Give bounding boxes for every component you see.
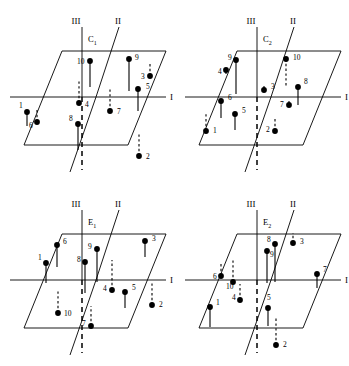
site-number-label: 10 bbox=[77, 57, 85, 66]
site-marker: 7 bbox=[280, 100, 292, 109]
site-dot bbox=[88, 323, 94, 329]
site-dot bbox=[87, 58, 93, 64]
site-number-label: 5 bbox=[242, 106, 246, 115]
site-dot bbox=[286, 102, 292, 108]
site-dot bbox=[109, 287, 115, 293]
site-number-label: 9 bbox=[88, 242, 92, 251]
panel-e1: IIIIIIE112345678910 bbox=[0, 183, 174, 366]
axis-ii-label: II bbox=[115, 16, 121, 26]
axis-ii-line-upper bbox=[96, 27, 119, 97]
crystal-plane-parallelogram bbox=[199, 51, 341, 145]
panel-label: C1 bbox=[88, 34, 97, 46]
panel-label-subscript: 2 bbox=[268, 223, 271, 229]
site-marker: 5 bbox=[122, 283, 136, 308]
site-number-label: 10 bbox=[226, 282, 234, 291]
site-number-label: 1 bbox=[216, 298, 220, 307]
site-number-label: 10 bbox=[64, 309, 72, 318]
site-dot bbox=[24, 109, 30, 115]
site-dot bbox=[147, 73, 153, 79]
axis-ii-line-lower bbox=[245, 280, 271, 355]
site-number-label: 9 bbox=[135, 53, 139, 62]
site-dot bbox=[273, 342, 279, 348]
site-dot bbox=[290, 240, 296, 246]
site-marker: 8 bbox=[295, 77, 308, 105]
site-marker: 9 bbox=[264, 248, 274, 283]
molecular-site-diagram-figure: IIIIIIC112345678910IIIIIIC212345678910II… bbox=[0, 0, 349, 366]
site-dot bbox=[272, 241, 278, 247]
site-number-label: 5 bbox=[267, 293, 271, 302]
site-marker: 10 bbox=[226, 260, 236, 291]
site-number-label: 1 bbox=[213, 126, 217, 135]
site-dot bbox=[265, 305, 271, 311]
site-dot bbox=[43, 260, 49, 266]
site-dot bbox=[126, 56, 132, 62]
site-marker: 2 bbox=[136, 134, 150, 161]
site-number-label: 4 bbox=[85, 100, 89, 109]
site-marker: 10 bbox=[55, 291, 72, 318]
site-marker: 1 bbox=[38, 253, 49, 283]
site-dot bbox=[54, 242, 60, 248]
site-number-label: 10 bbox=[293, 53, 301, 62]
site-number-label: 7 bbox=[280, 100, 284, 109]
site-marker: 5 bbox=[232, 106, 246, 130]
site-marker: 9 bbox=[88, 242, 100, 282]
panel-label: C2 bbox=[263, 34, 272, 46]
site-number-label: 4 bbox=[218, 67, 222, 76]
site-marker: 2 bbox=[266, 117, 278, 134]
axis-ii-label: II bbox=[115, 199, 121, 209]
site-dot bbox=[218, 273, 224, 279]
site-dot bbox=[75, 121, 81, 127]
panel-c2: IIIIIIC212345678910 bbox=[175, 0, 349, 183]
panel-label: E2 bbox=[263, 217, 271, 229]
site-marker: 4 bbox=[103, 260, 115, 293]
site-marker: 9 bbox=[228, 53, 239, 94]
crystal-plane-parallelogram bbox=[24, 51, 166, 145]
site-marker: 4 bbox=[232, 284, 243, 303]
site-number-label: 6 bbox=[29, 121, 33, 130]
site-dot bbox=[223, 67, 229, 73]
axis-iii-label: III bbox=[72, 16, 81, 26]
site-dot bbox=[218, 98, 224, 104]
site-marker: 4 bbox=[76, 79, 89, 109]
site-dot bbox=[283, 56, 289, 62]
site-dot bbox=[237, 297, 243, 303]
axis-ii-line-lower bbox=[245, 97, 271, 172]
site-number-label: 3 bbox=[271, 82, 275, 91]
site-number-label: 3 bbox=[300, 237, 304, 246]
site-number-label: 3 bbox=[141, 72, 145, 81]
site-number-label: 2 bbox=[266, 125, 270, 134]
panel-label-subscript: 1 bbox=[93, 223, 96, 229]
site-dot bbox=[314, 271, 320, 277]
site-dot bbox=[76, 100, 82, 106]
site-number-label: 6 bbox=[63, 237, 67, 246]
site-dot bbox=[135, 86, 141, 92]
axis-i-label: I bbox=[345, 92, 348, 102]
site-number-label: 2 bbox=[146, 152, 150, 161]
axis-iii-label: III bbox=[247, 16, 256, 26]
axis-iii-label: III bbox=[72, 199, 81, 209]
site-dot bbox=[149, 302, 155, 308]
site-number-label: 1 bbox=[38, 253, 42, 262]
site-marker: 7 bbox=[107, 89, 121, 116]
site-dot bbox=[142, 238, 148, 244]
site-number-label: 8 bbox=[69, 114, 73, 123]
site-dot bbox=[232, 111, 238, 117]
site-dot bbox=[272, 128, 278, 134]
site-number-label: 7 bbox=[117, 107, 121, 116]
axis-ii-line-lower bbox=[70, 97, 96, 172]
site-number-label: 7 bbox=[323, 265, 327, 274]
site-number-label: 2 bbox=[159, 300, 163, 309]
site-dot bbox=[261, 87, 267, 93]
site-marker: 5 bbox=[265, 293, 271, 326]
axis-ii-label: II bbox=[290, 199, 296, 209]
site-marker: 9 bbox=[126, 53, 139, 91]
site-dot bbox=[34, 119, 40, 125]
site-number-label: 8 bbox=[304, 77, 308, 86]
site-number-label: 6 bbox=[213, 272, 217, 281]
site-dot bbox=[55, 310, 61, 316]
site-number-label: 9 bbox=[270, 250, 274, 259]
panel-label-subscript: 1 bbox=[94, 40, 97, 46]
site-marker: 3 bbox=[141, 63, 153, 81]
axis-iii-label: III bbox=[247, 199, 256, 209]
panel-e2: IIIIIIE212345678910 bbox=[175, 183, 349, 366]
